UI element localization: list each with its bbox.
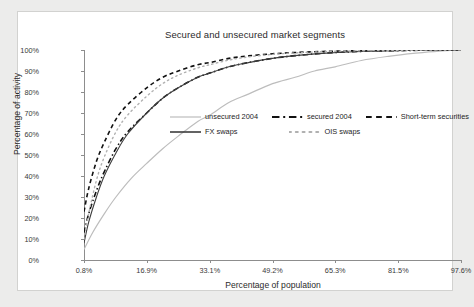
legend-label: secured 2004 [307,112,352,121]
y-tick-label: 90% [24,67,39,76]
chart-legend: unsecured 2004secured 2004Short-term sec… [170,109,460,139]
x-tick-label: 81.5% [388,266,409,275]
x-tick-label: 65.3% [325,266,346,275]
series-line-fx-swaps [84,50,461,243]
chart-title: Secured and unsecured market segments [18,29,474,40]
x-tick-mark [461,260,462,263]
legend-label: FX swaps [205,127,237,136]
legend-swatch [272,113,303,121]
legend-swatch [366,113,397,121]
y-axis-label: Percentage of activity [12,73,22,155]
x-tick-mark [147,260,148,263]
y-tick-label: 70% [24,109,39,118]
y-tick-label: 10% [24,235,39,244]
series-line-unsecured-2004 [84,50,461,250]
legend-swatch [170,113,201,121]
x-tick-label: 97.6% [451,266,472,275]
legend-item-short-term-securities[interactable]: Short-term securities [366,112,469,121]
x-tick-mark [273,260,274,263]
x-tick-label: 0.8% [76,266,93,275]
chart-frame: Secured and unsecured market segments Pe… [17,11,453,291]
series-line-ois-swaps [84,50,461,239]
y-tick-label: 60% [24,130,39,139]
y-tick-label: 20% [24,214,39,223]
y-tick-label: 50% [24,151,39,160]
x-tick-label: 16.9% [136,266,157,275]
legend-swatch [289,128,320,136]
x-tick-label: 33.1% [199,266,220,275]
y-tick-label: 80% [24,88,39,97]
series-curves [84,50,461,260]
legend-item-fx-swaps[interactable]: FX swaps [170,127,237,136]
legend-item-secured-2004[interactable]: secured 2004 [272,112,352,121]
x-axis-label: Percentage of population [84,280,462,290]
y-tick-label: 30% [24,193,39,202]
chart-page: Secured and unsecured market segments Pe… [0,0,474,307]
legend-label: unsecured 2004 [205,112,258,121]
legend-row: FX swapsOIS swaps [170,124,460,139]
plot-area [84,50,461,260]
x-tick-mark [398,260,399,263]
x-tick-mark [84,260,85,263]
legend-item-unsecured-2004[interactable]: unsecured 2004 [170,112,258,121]
legend-row: unsecured 2004secured 2004Short-term sec… [170,109,460,124]
legend-swatch [170,128,201,136]
y-tick-label: 100% [20,46,39,55]
legend-item-ois-swaps[interactable]: OIS swaps [289,127,360,136]
x-tick-mark [210,260,211,263]
x-tick-label: 49.2% [262,266,283,275]
x-tick-mark [335,260,336,263]
legend-label: OIS swaps [324,127,360,136]
y-tick-label: 40% [24,172,39,181]
series-line-secured-2004 [84,50,461,233]
legend-label: Short-term securities [401,112,469,121]
y-tick-label: 0% [28,256,39,265]
